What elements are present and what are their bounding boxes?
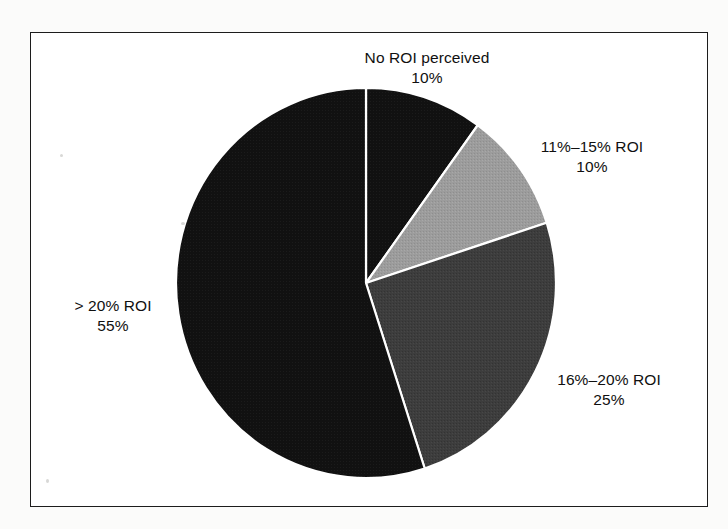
chart-page: No ROI perceived 10% 11%–15% ROI 10% 16%…	[0, 0, 728, 529]
pie-label-11-15: 11%–15% ROI 10%	[512, 137, 672, 177]
pie-label-11-15-name: 11%–15% ROI	[512, 137, 672, 157]
pie-label-16-20-name: 16%–20% ROI	[524, 370, 694, 390]
pie-label-no-roi-value: 10%	[332, 68, 522, 88]
pie-label-11-15-value: 10%	[512, 157, 672, 177]
pie-label-gt-20-name: > 20% ROI	[38, 296, 188, 316]
scan-speckle	[181, 222, 185, 225]
scan-speckle	[60, 154, 63, 157]
scan-speckle	[46, 479, 49, 483]
pie-label-gt-20: > 20% ROI 55%	[38, 296, 188, 336]
pie-label-16-20-value: 25%	[524, 390, 694, 410]
pie-label-no-roi-name: No ROI perceived	[332, 48, 522, 68]
pie-label-gt-20-value: 55%	[38, 316, 188, 336]
pie-label-no-roi: No ROI perceived 10%	[332, 48, 522, 88]
pie-label-16-20: 16%–20% ROI 25%	[524, 370, 694, 410]
